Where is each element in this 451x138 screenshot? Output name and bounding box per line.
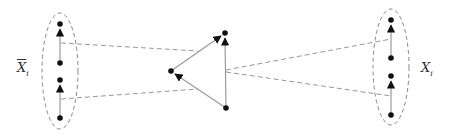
node-L3 — [57, 77, 63, 83]
node-B — [223, 105, 229, 111]
center-edge-M-T — [171, 36, 221, 71]
node-L2 — [57, 60, 63, 66]
node-R3 — [388, 73, 394, 79]
node-R4 — [388, 112, 394, 118]
right-label-sub: i — [430, 69, 433, 78]
mapping-right-upper — [226, 39, 391, 70]
left-group — [42, 13, 78, 129]
right-group — [373, 9, 409, 125]
left-label-main: X — [17, 60, 26, 75]
node-R1 — [388, 17, 394, 23]
center-graph — [168, 30, 229, 111]
left-group-label: Xi — [17, 60, 29, 78]
mapping-left-upper — [61, 43, 198, 51]
diagram-canvas — [0, 0, 451, 138]
center-edge-B-T — [225, 38, 226, 108]
node-L1 — [57, 21, 63, 27]
right-group-label: Xi — [421, 60, 433, 78]
node-M — [168, 68, 174, 74]
center-edge-B-M — [175, 74, 226, 108]
mapping-right-lower — [226, 72, 391, 96]
node-L4 — [57, 115, 63, 121]
mapping-left-lower — [61, 89, 198, 99]
right-label-main: X — [421, 60, 430, 75]
node-R2 — [388, 55, 394, 61]
node-T — [222, 30, 228, 36]
left-label-sub: i — [26, 69, 29, 78]
